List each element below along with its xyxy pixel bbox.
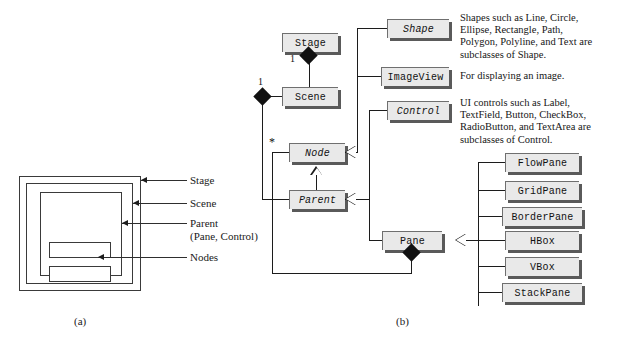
class-box-control[interactable]: Control (387, 101, 449, 120)
gen-parent-to-node (316, 175, 317, 190)
gen-branch-control (369, 110, 387, 111)
class-label-shape: Shape (403, 24, 434, 35)
class-label-gridpane: GridPane (518, 186, 568, 197)
generalization-arrow-pane-fill (456, 234, 466, 246)
class-box-scene[interactable]: Scene (282, 87, 338, 106)
class-label-hbox: HBox (530, 236, 555, 247)
gen-branch-gridpane (478, 190, 505, 191)
description-shape: Shapes such as Line, Circle, Ellipse, Re… (460, 12, 620, 61)
gen-branch-stackpane (478, 292, 505, 293)
generalization-arrow-parent-fill (346, 193, 356, 205)
description-control: UI controls such as Label, TextField, Bu… (460, 97, 622, 146)
link-node-pane (272, 273, 412, 274)
multiplicity-scene-node: 1 (258, 76, 263, 87)
link-node-trunk-top (272, 152, 290, 153)
gen-branch-flowpane (478, 162, 505, 163)
gen-branch-shape (357, 28, 387, 29)
class-label-stackpane: StackPane (515, 288, 571, 299)
class-label-imageview: ImageView (388, 72, 444, 83)
link-scene-parent (262, 199, 290, 200)
class-label-flowpane: FlowPane (518, 158, 568, 169)
class-box-parent[interactable]: Parent (289, 190, 345, 209)
class-box-borderpane[interactable]: BorderPane (502, 207, 582, 226)
class-label-parent: Parent (299, 195, 336, 206)
generalization-arrow-node-up-fill (312, 168, 322, 175)
multiplicity-stage-scene: 1 (290, 53, 295, 64)
gen-branch-hbox (478, 240, 505, 241)
aggregation-diamond-scene (253, 87, 271, 105)
generalization-arrow-node-fill (346, 146, 356, 158)
class-box-flowpane[interactable]: FlowPane (505, 153, 579, 172)
class-box-imageview[interactable]: ImageView (381, 67, 449, 86)
class-label-borderpane: BorderPane (511, 212, 573, 223)
class-box-vbox[interactable]: VBox (505, 257, 579, 276)
class-box-gridpane[interactable]: GridPane (505, 181, 579, 200)
gen-trunk-panes (478, 162, 479, 306)
class-label-stage: Stage (295, 38, 326, 49)
class-label-vbox: VBox (530, 262, 555, 273)
class-label-control: Control (397, 106, 440, 117)
class-label-node: Node (305, 148, 330, 159)
gen-trunk-parent (369, 110, 370, 200)
class-label-scene: Scene (295, 92, 326, 103)
gen-trunk-pane-entry (369, 240, 382, 241)
gen-branch-borderpane (478, 216, 505, 217)
class-box-shape[interactable]: Shape (387, 19, 449, 38)
figure-root: Stage Scene Parent (Pane, Control) Nodes… (0, 0, 624, 342)
link-scene-trunk-vert (262, 96, 263, 200)
link-node-trunk-vert (272, 152, 273, 274)
caption-b: (b) (396, 315, 409, 327)
class-box-node[interactable]: Node (289, 143, 345, 162)
panel-b: Stage Scene Node Parent Shape ImageView … (0, 0, 624, 342)
class-box-stackpane[interactable]: StackPane (502, 283, 582, 302)
description-imageview: For displaying an image. (460, 70, 620, 82)
class-box-hbox[interactable]: HBox (505, 231, 579, 250)
gen-trunk-parent-to-pane (369, 199, 370, 241)
gen-trunk-node (357, 28, 358, 152)
multiplicity-node-star: * (269, 138, 275, 146)
gen-branch-vbox (478, 266, 505, 267)
